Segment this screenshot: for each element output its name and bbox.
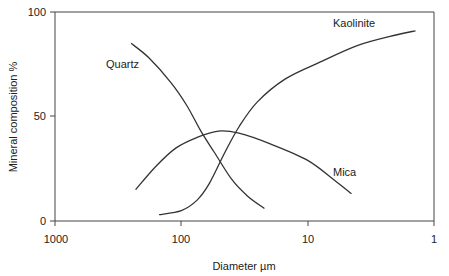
x-axis-title: Diameter µm	[212, 260, 275, 272]
x-tick-label: 1000	[44, 233, 68, 245]
y-axis-title: Mineral composition %	[7, 61, 19, 172]
x-axis	[55, 221, 434, 226]
series-line-mica	[136, 131, 352, 194]
series-label-quartz: Quartz	[106, 58, 139, 70]
series-layer	[131, 31, 415, 215]
y-tick-label: 0	[40, 215, 46, 227]
plot-frame	[55, 12, 434, 221]
series-label-kaolinite: Kaolinite	[333, 17, 375, 29]
mineral-composition-chart: 0 50 100 1000 100 10 1 Diameter µm Miner…	[0, 0, 449, 276]
series-line-quartz	[131, 43, 264, 208]
series-line-kaolinite	[159, 31, 415, 215]
y-tick-label: 50	[34, 110, 46, 122]
series-label-mica: Mica	[333, 166, 357, 178]
y-axis	[50, 12, 55, 221]
x-tick-label: 100	[172, 233, 190, 245]
x-tick-label: 1	[431, 233, 437, 245]
y-tick-label: 100	[28, 6, 46, 18]
x-tick-label: 10	[302, 233, 314, 245]
